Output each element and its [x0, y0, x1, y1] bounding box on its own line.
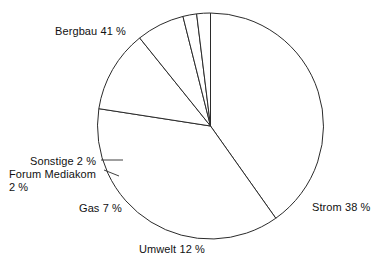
pie-label-forum-mediakom: Forum Mediakom: [9, 168, 96, 181]
pie-label-umwelt: Umwelt 12 %: [139, 243, 205, 256]
pie-chart-svg: [0, 0, 382, 264]
pie-label-bergbau: Bergbau 41 %: [55, 25, 126, 38]
pie-slices-group: [98, 13, 324, 239]
pie-label-strom: Strom 38 %: [312, 201, 370, 214]
pie-label-forum-mediakom-value: 2 %: [9, 181, 28, 194]
pie-label-sonstige: Sonstige 2 %: [30, 155, 96, 168]
pie-chart: Bergbau 41 % Strom 38 % Umwelt 12 % Gas …: [0, 0, 382, 264]
pie-label-gas: Gas 7 %: [79, 202, 122, 215]
